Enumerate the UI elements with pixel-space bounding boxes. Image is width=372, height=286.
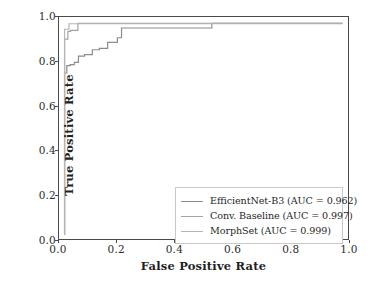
legend-label-efficientnet-b3: EfficientNet-B3 (AUC = 0.962)	[210, 195, 357, 206]
legend-line-swatch-conv-baseline	[181, 210, 203, 221]
legend-line-swatch-morphset	[181, 225, 203, 236]
y-axis-label: True Positive Rate	[62, 23, 76, 247]
legend-line-swatch-efficientnet-b3	[181, 195, 203, 206]
x-tick-label-1: 0.2	[108, 243, 125, 255]
x-axis-label: False Positive Rate	[58, 259, 349, 273]
x-tick-label-3: 0.6	[224, 243, 241, 255]
legend-item-morphset: MorphSet (AUC = 0.999)	[181, 223, 336, 238]
legend-item-efficientnet-b3: EfficientNet-B3 (AUC = 0.962)	[181, 193, 336, 208]
x-tick-label-2: 0.4	[166, 243, 183, 255]
x-tick-mark	[116, 240, 117, 243]
legend-label-conv-baseline: Conv. Baseline (AUC = 0.997)	[210, 210, 353, 221]
x-tick-label-5: 1.0	[340, 243, 357, 255]
legend-label-morphset: MorphSet (AUC = 0.999)	[210, 225, 331, 236]
x-tick-mark	[349, 240, 350, 243]
y-tick-label-0: 1.0	[39, 10, 56, 22]
x-tick-mark	[58, 240, 59, 243]
x-tick-label-4: 0.8	[282, 243, 299, 255]
legend: EfficientNet-B3 (AUC = 0.962) Conv. Base…	[175, 187, 343, 244]
legend-item-conv-baseline: Conv. Baseline (AUC = 0.997)	[181, 208, 336, 223]
y-tick-label-4: 0.2	[39, 189, 56, 201]
y-tick-label-1: 0.8	[39, 55, 56, 67]
roc-curve-figure: 1.0 0.8 0.6 0.4 0.2 0.0 0.0 0.2 0.4 0.6 …	[0, 0, 372, 286]
y-tick-label-2: 0.6	[39, 100, 56, 112]
y-tick-label-3: 0.4	[39, 144, 56, 156]
